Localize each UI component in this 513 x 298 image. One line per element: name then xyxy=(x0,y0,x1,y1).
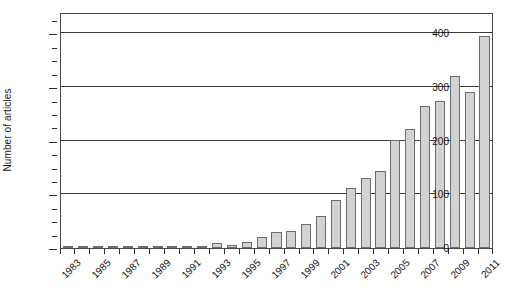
x-tick-label: 2003 xyxy=(358,257,382,281)
bar-cell xyxy=(328,14,343,248)
y-tick-375 xyxy=(52,48,57,49)
x-tick-label: 1995 xyxy=(239,257,263,281)
bar-2006 xyxy=(405,129,415,248)
bar-1996 xyxy=(257,237,267,248)
bar-cell xyxy=(388,14,403,248)
y-tick-175 xyxy=(52,155,57,156)
bar-2000 xyxy=(316,216,326,248)
plot-inner xyxy=(61,14,492,248)
bar-1984 xyxy=(78,246,88,248)
bar-cell xyxy=(314,14,329,248)
bar-cell xyxy=(462,14,477,248)
y-tick-label: 100 xyxy=(409,190,449,200)
y-tick-425 xyxy=(52,21,57,22)
y-tick-400 xyxy=(49,34,57,35)
bar-1988 xyxy=(138,246,148,248)
y-tick-250 xyxy=(52,115,57,116)
x-tick-label: 1985 xyxy=(90,257,114,281)
bar-series xyxy=(61,14,492,248)
bar-cell xyxy=(224,14,239,248)
bar-1993 xyxy=(212,243,222,248)
y-tick-label: 200 xyxy=(409,137,449,147)
y-tick-label: 400 xyxy=(409,29,449,39)
bar-cell xyxy=(239,14,254,248)
bar-1997 xyxy=(271,232,281,248)
y-tick-200 xyxy=(49,142,57,143)
y-tick-label: 300 xyxy=(409,83,449,93)
x-axis-labels: 1983198519871989199119931995199719992001… xyxy=(60,255,493,298)
bar-cell xyxy=(343,14,358,248)
bar-cell xyxy=(180,14,195,248)
y-tick-0 xyxy=(49,249,57,250)
bar-cell xyxy=(373,14,388,248)
bar-2002 xyxy=(346,188,356,248)
x-tick-label: 1993 xyxy=(209,257,233,281)
bar-cell xyxy=(165,14,180,248)
bar-2003 xyxy=(361,178,371,248)
bar-1991 xyxy=(182,246,192,248)
bar-cell xyxy=(269,14,284,248)
y-tick-25 xyxy=(52,236,57,237)
bar-cell xyxy=(358,14,373,248)
bar-cell xyxy=(299,14,314,248)
x-tick-label: 1999 xyxy=(299,257,323,281)
bar-cell xyxy=(210,14,225,248)
bar-cell xyxy=(195,14,210,248)
x-tick-label: 1987 xyxy=(119,257,143,281)
bar-1999 xyxy=(301,224,311,248)
x-tick-label: 2009 xyxy=(448,257,472,281)
bar-cell xyxy=(432,14,447,248)
bar-1990 xyxy=(167,246,177,248)
plot-area xyxy=(60,13,493,249)
bar-2005 xyxy=(390,140,400,248)
bar-cell xyxy=(447,14,462,248)
bar-cell xyxy=(254,14,269,248)
bar-1989 xyxy=(153,246,163,248)
bar-cell xyxy=(120,14,135,248)
bar-cell xyxy=(418,14,433,248)
bar-2010 xyxy=(465,92,475,248)
bar-1992 xyxy=(197,246,207,248)
y-tick-300 xyxy=(49,88,57,89)
bar-1994 xyxy=(227,245,237,248)
bar-2007 xyxy=(420,106,430,248)
bar-cell xyxy=(61,14,76,248)
x-tick-label: 2011 xyxy=(478,257,501,280)
y-tick-325 xyxy=(52,75,57,76)
y-tick-label: 0 xyxy=(409,244,449,254)
x-tick-label: 2001 xyxy=(328,257,352,281)
y-tick-75 xyxy=(52,209,57,210)
bar-cell xyxy=(403,14,418,248)
bar-1985 xyxy=(93,246,103,248)
bar-cell xyxy=(135,14,150,248)
bar-1987 xyxy=(123,246,133,248)
bar-cell xyxy=(477,14,492,248)
x-tick-label: 2007 xyxy=(418,257,442,281)
x-tick-label: 2005 xyxy=(388,257,412,281)
y-tick-50 xyxy=(52,222,57,223)
bar-1986 xyxy=(108,246,118,248)
y-tick-150 xyxy=(52,169,57,170)
bar-cell xyxy=(76,14,91,248)
y-axis-ticks xyxy=(0,0,60,298)
bar-cell xyxy=(150,14,165,248)
y-tick-275 xyxy=(52,102,57,103)
bar-2001 xyxy=(331,200,341,248)
bar-cell xyxy=(91,14,106,248)
bar-cell xyxy=(284,14,299,248)
bar-chart-figure: Number of articles 198319851987198919911… xyxy=(0,0,513,298)
bar-2011 xyxy=(479,36,489,248)
x-tick-label: 1997 xyxy=(269,257,293,281)
x-axis-tick-end xyxy=(492,249,493,254)
bar-1995 xyxy=(242,242,252,248)
y-tick-350 xyxy=(52,61,57,62)
x-tick-label: 1983 xyxy=(60,257,84,281)
bar-2009 xyxy=(450,76,460,248)
x-tick-label: 1989 xyxy=(149,257,173,281)
bar-1998 xyxy=(286,231,296,248)
x-tick-label: 1991 xyxy=(179,257,203,281)
y-tick-225 xyxy=(52,128,57,129)
y-tick-125 xyxy=(52,182,57,183)
bar-cell xyxy=(106,14,121,248)
y-tick-100 xyxy=(49,195,57,196)
